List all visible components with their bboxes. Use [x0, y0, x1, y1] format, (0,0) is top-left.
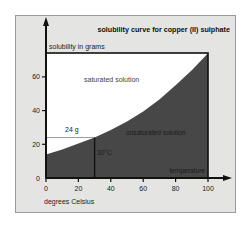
x-tick-label: 40: [107, 185, 115, 192]
y-tick-label: 20: [32, 141, 40, 148]
x-ticks: 020406080100: [44, 178, 214, 192]
y-tick-label: 0: [36, 175, 40, 182]
x-tick-label: 100: [202, 185, 214, 192]
x-tick-label: 80: [172, 185, 180, 192]
saturated-label: saturated solution: [84, 76, 139, 83]
x-tick-label: 60: [139, 185, 147, 192]
ref-30c-label: 30°C: [97, 149, 112, 156]
ref-24g-label: 24 g: [65, 126, 79, 134]
y-tick-label: 60: [32, 73, 40, 80]
y-tick-label: 40: [32, 107, 40, 114]
y-axis-arrow-icon: [43, 17, 49, 26]
solubility-chart: 0204060 020406080100 solubility curve fo…: [0, 0, 249, 225]
x-tick-label: 0: [44, 185, 48, 192]
y-ticks: 0204060: [32, 73, 46, 181]
x-tick-label: 20: [75, 185, 83, 192]
chart-title: solubility curve for copper (II) sulphat…: [97, 25, 230, 34]
x-axis-label: degrees Celsius: [44, 198, 95, 206]
x-axis-caption: temperature: [169, 167, 205, 175]
x-axis-arrow-icon: [223, 175, 232, 181]
y-axis-label: solubility in grams: [49, 43, 105, 51]
unsaturated-label: unsaturated solution: [126, 129, 186, 136]
